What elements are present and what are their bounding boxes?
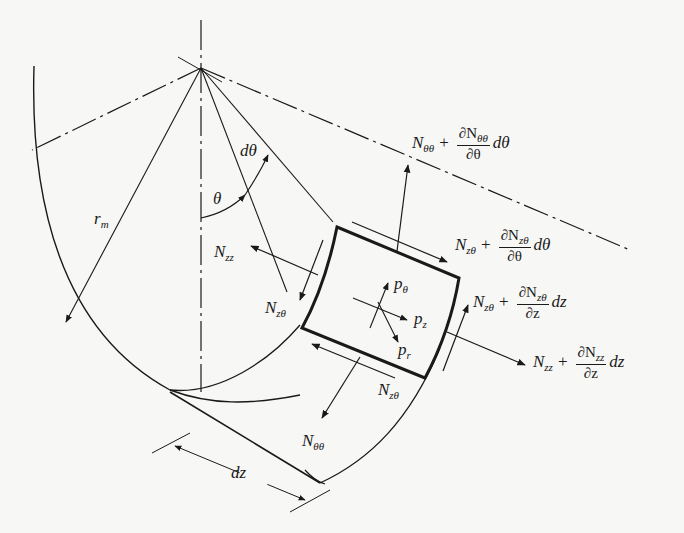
shell-outer-curve	[34, 66, 300, 402]
nzz-left-arrow	[251, 246, 318, 275]
nztheta-right-label: Nzθ+∂Nzθ∂zdz	[473, 285, 567, 321]
nztheta-bottom-label: Nzθ	[378, 381, 399, 401]
p-z-arrow	[353, 298, 407, 320]
nzz-right-arrow	[447, 332, 525, 365]
p-z-label: pz	[414, 310, 427, 330]
nztheta-top-label: Nzθ+∂Nzθ∂θdθ	[455, 228, 550, 264]
dtheta-label: dθ	[240, 142, 257, 159]
dtheta-arc	[245, 155, 268, 195]
left-dashdot-line	[32, 68, 201, 150]
nztheta-left-label: Nzθ	[265, 299, 286, 319]
shell-inner-curve	[170, 325, 300, 390]
theta-arc	[201, 195, 245, 218]
ntt-top-arrow	[397, 165, 408, 251]
p-r-arrow	[378, 302, 398, 342]
theta-label: θ	[213, 190, 221, 207]
p-r-label: pr	[398, 341, 411, 361]
shell-right-curve	[320, 348, 440, 483]
ntt-bottom-label: Nθθ	[302, 432, 324, 452]
shell-element-diagram: rm θ dθ Nzz Nzθ Nθθ+∂Nθθ∂θdθ Nzθ+∂Nzθ∂θd…	[0, 0, 684, 533]
diagram-drawing	[0, 0, 684, 533]
ntt-top-label: Nθθ+∂Nθθ∂θdθ	[412, 126, 510, 162]
ntt-bottom-arrow	[322, 357, 360, 418]
nzz-left-label: Nzz	[214, 243, 234, 263]
dz-label: dz	[231, 464, 246, 481]
p-theta-label: pθ	[394, 275, 408, 295]
nzz-right-label: Nzz+∂Nzz∂zdz	[533, 345, 624, 381]
rm-radius-arrow	[66, 68, 201, 322]
rm-label: rm	[94, 210, 109, 230]
nztheta-right-arrow	[443, 305, 468, 371]
